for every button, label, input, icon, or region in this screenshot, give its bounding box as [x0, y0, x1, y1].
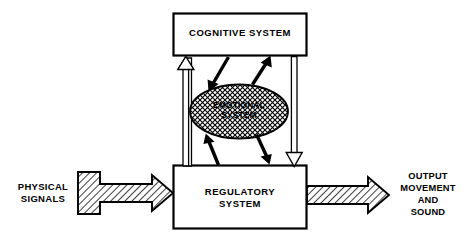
output-arrow	[307, 177, 389, 213]
physical-signals-arrow	[78, 172, 173, 214]
regulatory-to-emotional-arrow	[203, 134, 218, 166]
emotional-system-label: EMOTIONAL SYSTEM	[190, 100, 288, 120]
down-arrowhead	[286, 153, 302, 167]
diagram-canvas: COGNITIVE SYSTEM EMOTIONAL SYSTEM REGULA…	[0, 0, 466, 244]
emotional-to-cognitive-arrow	[253, 56, 272, 85]
up-arrow-shaft-inner	[183, 67, 188, 166]
cognitive-system-label: COGNITIVE SYSTEM	[173, 27, 307, 38]
output-movement-sound-label: OUTPUT MOVEMENT AND SOUND	[392, 170, 464, 218]
emotional-to-regulatory-arrow	[257, 135, 272, 165]
physical-signals-label: PHYSICAL SIGNALS	[4, 181, 82, 205]
regulatory-system-label: REGULATORY SYSTEM	[173, 186, 307, 210]
